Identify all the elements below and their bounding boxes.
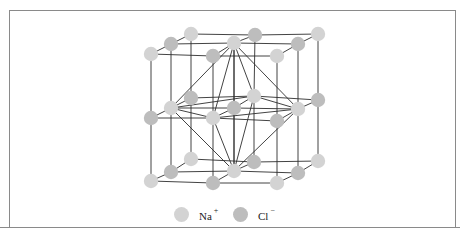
cl-ion-atom <box>227 101 241 115</box>
na-ion-atom <box>227 36 241 50</box>
na-ion-atom <box>311 154 325 168</box>
nacl-lattice-diagram <box>0 0 464 235</box>
legend-item-na: Na+ <box>174 206 218 223</box>
cl-ion-atom <box>164 165 178 179</box>
na-ion-atom <box>247 89 261 103</box>
legend-label-cl: Cl− <box>258 206 275 223</box>
cl-ion-atom <box>206 176 220 190</box>
cl-ion-atom <box>144 111 158 125</box>
na-ion-atom <box>311 27 325 41</box>
na-ion-atom <box>164 101 178 115</box>
cl-ion-atom <box>270 114 284 128</box>
cl-ion-atom <box>311 93 325 107</box>
na-ion-swatch-icon <box>174 207 189 222</box>
legend-label-na: Na+ <box>199 206 218 223</box>
na-ion-atom <box>270 49 284 63</box>
cl-ion-atom <box>291 37 305 51</box>
cl-ion-swatch-icon <box>233 207 248 222</box>
na-ion-atom <box>144 174 158 188</box>
legend: Na+ Cl− <box>0 206 464 224</box>
na-ion-atom <box>227 164 241 178</box>
cl-ion-atom <box>206 49 220 63</box>
na-ion-atom <box>206 111 220 125</box>
cl-ion-atom <box>247 155 261 169</box>
cl-ion-atom <box>291 166 305 180</box>
na-ion-atom <box>184 152 198 166</box>
na-ion-atom <box>144 47 158 61</box>
legend-item-cl: Cl− <box>233 206 275 223</box>
na-ion-atom <box>270 176 284 190</box>
na-ion-atom <box>184 27 198 41</box>
cl-ion-atom <box>248 28 262 42</box>
na-ion-atom <box>291 102 305 116</box>
cl-ion-atom <box>164 37 178 51</box>
cl-ion-atom <box>184 91 198 105</box>
